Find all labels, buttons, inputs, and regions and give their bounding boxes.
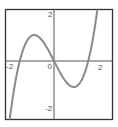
y-tick-label-2: 2 [48, 10, 53, 19]
y-tick-label-neg2: -2 [45, 104, 53, 113]
function-plot: -2 0 2 2 -2 [0, 0, 118, 127]
plot-frame [6, 10, 113, 120]
x-tick-label-2: 2 [98, 63, 103, 72]
x-tick-label-neg2: -2 [6, 62, 14, 71]
x-tick-label-0: 0 [48, 62, 53, 71]
